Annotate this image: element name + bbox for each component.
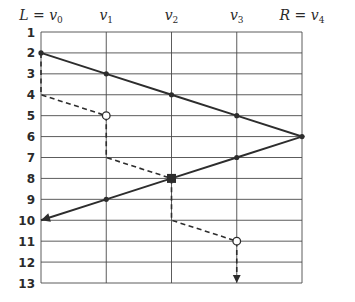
path-node-dot <box>234 155 239 160</box>
open-node-icon <box>233 237 241 245</box>
grid-diagram: L = v0v1v2v3R = v4 12345678910111213 <box>0 0 355 302</box>
path-node-dot <box>104 71 109 76</box>
row-label: 4 <box>27 88 35 102</box>
open-node-icon <box>102 112 110 120</box>
row-label: 6 <box>27 130 35 144</box>
row-label: 9 <box>27 193 35 207</box>
path-node-dot <box>299 134 304 139</box>
path-node-dot <box>169 92 174 97</box>
path-node-dot <box>234 113 239 118</box>
row-label: 8 <box>27 172 35 186</box>
arrowhead-icon <box>233 275 241 283</box>
square-node-icon <box>167 174 176 183</box>
row-labels: 12345678910111213 <box>18 26 35 291</box>
column-labels: L = v0v1v2v3R = v4 <box>18 7 324 25</box>
column-label-v0: L = v0 <box>18 7 63 25</box>
row-label: 12 <box>18 256 35 270</box>
column-label-v2: v2 <box>165 7 179 25</box>
row-label: 1 <box>27 26 35 40</box>
path-node-dot <box>104 197 109 202</box>
arrowhead-icon <box>41 213 51 221</box>
row-label: 5 <box>27 109 35 123</box>
row-label: 10 <box>18 214 35 228</box>
column-label-v3: v3 <box>230 7 244 25</box>
row-label: 3 <box>27 67 35 81</box>
grid-lines <box>41 32 302 283</box>
row-label: 2 <box>27 46 35 60</box>
dashed-path <box>41 53 241 283</box>
row-label: 11 <box>18 235 35 249</box>
column-label-v1: v1 <box>99 7 113 25</box>
column-label-v4: R = v4 <box>279 7 325 25</box>
row-label: 13 <box>18 277 35 291</box>
row-label: 7 <box>27 151 35 165</box>
